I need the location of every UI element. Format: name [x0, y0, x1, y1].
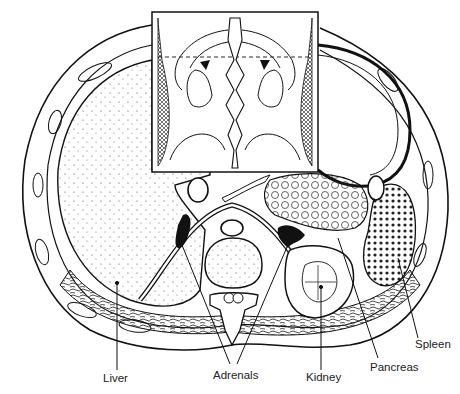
- label-kidney: Kidney: [306, 371, 341, 383]
- label-adrenals: Adrenals: [213, 369, 258, 381]
- cross-section-diagram: [0, 0, 460, 394]
- pancreas: [265, 174, 368, 231]
- kidney: [285, 246, 353, 318]
- label-pancreas: Pancreas: [370, 361, 419, 373]
- label-spleen: Spleen: [415, 338, 451, 350]
- label-liver: Liver: [103, 372, 128, 384]
- inset-posterior-view: [152, 12, 318, 172]
- spleen: [364, 184, 416, 286]
